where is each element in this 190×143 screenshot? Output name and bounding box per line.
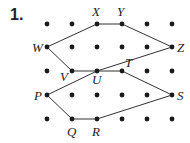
grid-dot [95, 117, 100, 122]
segment-UZ [97, 47, 172, 71]
point-label-W: W [32, 40, 44, 55]
point-label-T: T [125, 55, 133, 70]
grid-dot [70, 117, 75, 122]
grid-dot [120, 69, 125, 74]
grid-dot [170, 45, 175, 50]
point-label-Q: Q [67, 124, 77, 139]
grid-dot [145, 69, 150, 74]
grid-dot [95, 22, 100, 27]
grid-dot [170, 22, 175, 27]
grid-dot [120, 93, 125, 98]
grid-dot [145, 22, 150, 27]
point-label-U: U [92, 72, 103, 87]
grid-dot [120, 22, 125, 27]
point-label-Z: Z [177, 40, 185, 55]
grid-dot [70, 22, 75, 27]
grid-dot [45, 22, 50, 27]
point-label-Y: Y [117, 4, 126, 19]
segment-PQ [47, 95, 72, 119]
segment-RS [97, 95, 172, 119]
grid-dot [70, 45, 75, 50]
segment-YZ [122, 24, 172, 47]
grid-dot [120, 45, 125, 50]
grid-dot [170, 69, 175, 74]
point-label-R: R [91, 124, 100, 139]
point-label-P: P [33, 88, 42, 103]
grid-dot [145, 117, 150, 122]
grid-dot [170, 117, 175, 122]
segment-WV [47, 47, 72, 71]
segment-PU [47, 71, 97, 95]
grid-dot [45, 117, 50, 122]
grid-dot [70, 69, 75, 74]
point-label-V: V [60, 69, 70, 84]
grid-dot [95, 93, 100, 98]
grid-dot [120, 117, 125, 122]
grid-dot [45, 69, 50, 74]
grid-dot [95, 45, 100, 50]
grid-dot [170, 93, 175, 98]
segment-TS [122, 71, 172, 95]
grid-dot [45, 45, 50, 50]
grid-dot [45, 93, 50, 98]
grid-dot [70, 93, 75, 98]
grid-dot [145, 93, 150, 98]
point-label-S: S [177, 88, 184, 103]
dot-grid-diagram: XYWZVUTPSQR [0, 0, 190, 143]
segment-WX [47, 24, 97, 47]
point-label-X: X [91, 4, 101, 19]
grid-dot [145, 45, 150, 50]
